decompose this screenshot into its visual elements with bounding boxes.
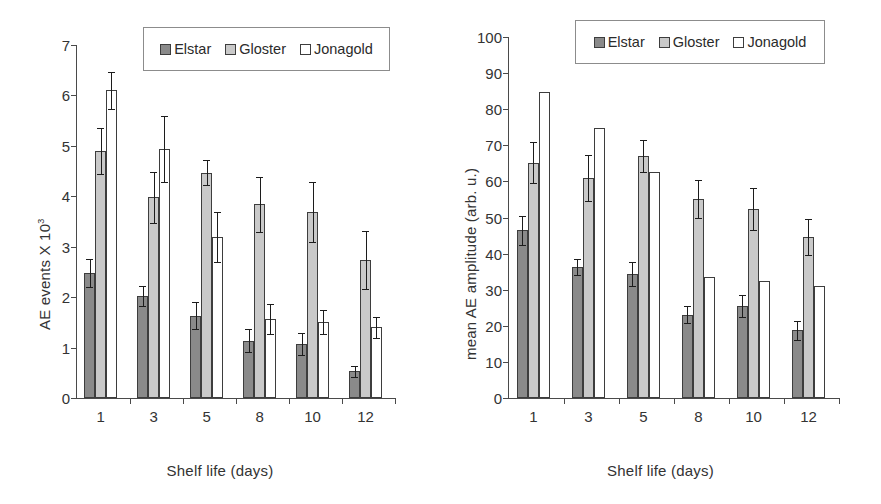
x-tick-12 — [839, 398, 840, 404]
error-cap-lower-elstar-day-10 — [739, 317, 746, 318]
error-cap-lower-gloster-day-12 — [805, 255, 812, 256]
x-tick-label-3: 3 — [149, 408, 157, 425]
legend-label-jonagold: Jonagold — [314, 41, 373, 57]
bar-jonagold-day-1 — [539, 92, 550, 398]
y-tick-label-90: 90 — [485, 65, 502, 82]
bar-gloster-day-8 — [693, 199, 704, 398]
x-axis-title-right: Shelf life (days) — [440, 462, 881, 479]
error-bar-gloster-day-10 — [753, 188, 754, 231]
error-cap-upper-jonagold-day-5 — [214, 212, 221, 213]
error-cap-lower-gloster-day-10 — [750, 230, 757, 231]
error-bar-gloster-day-1 — [101, 128, 102, 174]
error-cap-lower-jonagold-day-1 — [108, 109, 115, 110]
legend-label-gloster: Gloster — [673, 34, 720, 50]
y-tick-50 — [503, 218, 509, 219]
error-bar-elstar-day-12 — [355, 366, 356, 377]
legend-item-elstar: Elstar — [160, 41, 211, 57]
error-cap-upper-gloster-day-8 — [695, 180, 702, 181]
error-bar-gloster-day-8 — [698, 180, 699, 218]
x-tick-label-10: 10 — [745, 408, 762, 425]
error-cap-lower-elstar-day-5 — [192, 329, 199, 330]
error-cap-lower-gloster-day-5 — [203, 185, 210, 186]
error-cap-upper-jonagold-day-1 — [108, 72, 115, 73]
error-bar-gloster-day-5 — [643, 140, 644, 172]
error-cap-upper-gloster-day-12 — [362, 231, 369, 232]
error-cap-lower-elstar-day-1 — [86, 287, 93, 288]
x-tick-label-8: 8 — [694, 408, 702, 425]
error-cap-upper-elstar-day-12 — [794, 321, 801, 322]
error-cap-upper-elstar-day-10 — [298, 333, 305, 334]
bar-jonagold-day-3 — [594, 128, 605, 398]
error-cap-upper-gloster-day-10 — [750, 188, 757, 189]
error-cap-lower-jonagold-day-5 — [214, 262, 221, 263]
x-tick-1 — [564, 398, 565, 404]
x-tick-label-5: 5 — [202, 408, 210, 425]
error-cap-lower-gloster-day-1 — [530, 183, 537, 184]
y-tick-label-0: 0 — [494, 390, 502, 407]
error-cap-lower-jonagold-day-3 — [161, 182, 168, 183]
y-tick-70 — [503, 145, 509, 146]
y-axis-title-right: mean AE amplitude (arb. u.) — [462, 168, 479, 360]
x-tick-label-8: 8 — [255, 408, 263, 425]
y-tick-label-100: 100 — [477, 29, 502, 46]
error-cap-lower-gloster-day-5 — [640, 172, 647, 173]
plot-area-left: 0123456713581012 — [76, 45, 395, 399]
error-bar-jonagold-day-5 — [217, 212, 218, 262]
error-bar-elstar-day-3 — [143, 286, 144, 306]
legend-swatch-elstar — [160, 44, 171, 55]
error-bar-jonagold-day-1 — [111, 72, 112, 109]
error-cap-upper-jonagold-day-10 — [320, 310, 327, 311]
error-cap-lower-jonagold-day-8 — [267, 334, 274, 335]
error-bar-gloster-day-12 — [808, 219, 809, 255]
error-cap-upper-elstar-day-5 — [192, 302, 199, 303]
legend-swatch-gloster — [659, 37, 670, 48]
error-cap-lower-elstar-day-12 — [351, 377, 358, 378]
error-cap-upper-elstar-day-1 — [86, 259, 93, 260]
bar-elstar-day-8 — [682, 315, 693, 398]
error-bar-gloster-day-5 — [207, 160, 208, 185]
error-bar-gloster-day-3 — [588, 155, 589, 200]
bar-gloster-day-5 — [638, 156, 649, 398]
error-bar-jonagold-day-12 — [376, 317, 377, 338]
y-axis-title-left: AE events X 103 — [36, 219, 53, 330]
x-tick-1 — [130, 398, 131, 404]
legend-left: ElstarGlosterJonagold — [143, 27, 390, 71]
x-tick-label-12: 12 — [357, 408, 374, 425]
legend-item-jonagold: Jonagold — [300, 41, 373, 57]
x-tick-10 — [784, 398, 785, 404]
legend-label-gloster: Gloster — [239, 41, 286, 57]
x-tick-5 — [236, 398, 237, 404]
y-tick-20 — [503, 326, 509, 327]
error-cap-upper-elstar-day-8 — [684, 306, 691, 307]
bar-elstar-day-5 — [627, 274, 638, 398]
error-bar-gloster-day-12 — [366, 231, 367, 289]
error-bar-gloster-day-3 — [154, 172, 155, 222]
x-tick-label-1: 1 — [96, 408, 104, 425]
error-bar-jonagold-day-8 — [270, 304, 271, 334]
y-axis-title-left-exponent: 3 — [36, 219, 46, 224]
bar-gloster-day-12 — [803, 237, 814, 398]
x-tick-label-10: 10 — [304, 408, 321, 425]
error-cap-upper-elstar-day-10 — [739, 295, 746, 296]
x-tick-label-3: 3 — [584, 408, 592, 425]
error-cap-upper-elstar-day-5 — [629, 262, 636, 263]
chart-panel-ae-amplitude: mean AE amplitude (arb. u.) 010203040506… — [440, 0, 881, 504]
y-tick-100 — [503, 37, 509, 38]
y-tick-label-1: 1 — [62, 339, 70, 356]
legend-label-jonagold: Jonagold — [747, 34, 806, 50]
error-cap-upper-gloster-day-1 — [530, 142, 537, 143]
error-bar-jonagold-day-10 — [323, 310, 324, 334]
y-tick-label-3: 3 — [62, 238, 70, 255]
bar-gloster-day-5 — [201, 173, 212, 398]
y-tick-label-5: 5 — [62, 137, 70, 154]
y-tick-label-2: 2 — [62, 289, 70, 306]
bar-jonagold-day-8 — [704, 277, 715, 398]
y-tick-label-20: 20 — [485, 317, 502, 334]
x-tick-label-12: 12 — [800, 408, 817, 425]
error-cap-upper-gloster-day-5 — [640, 140, 647, 141]
legend-item-jonagold: Jonagold — [733, 34, 806, 50]
x-tick-8 — [729, 398, 730, 404]
legend-item-gloster: Gloster — [225, 41, 286, 57]
error-cap-lower-elstar-day-3 — [574, 275, 581, 276]
error-cap-upper-jonagold-day-8 — [267, 304, 274, 305]
